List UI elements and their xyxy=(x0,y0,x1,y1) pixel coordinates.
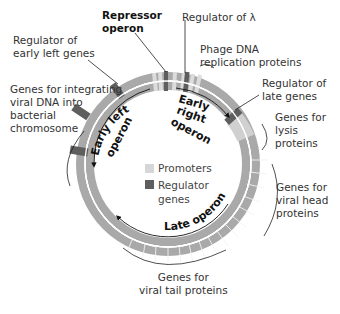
tail-genes-label: Genes for viral tail proteins xyxy=(139,271,228,297)
repressor-operon-label: Repressor operon xyxy=(102,9,162,35)
regulator-early-left-label: Regulator of early left genes xyxy=(13,34,95,60)
regulator-lambda-label: Regulator of λ xyxy=(182,11,256,24)
legend-regulators: Regulator genes xyxy=(145,178,212,206)
head-genes-label: Genes for viral head proteins xyxy=(276,181,328,220)
legend: Promoters Regulator genes xyxy=(145,162,212,206)
lysis-genes-label: Genes for lysis proteins xyxy=(275,111,326,150)
regulator-late-label: Regulator of late genes xyxy=(262,77,326,103)
regulator-swatch xyxy=(145,180,154,189)
integrating-genes-label: Genes for integrating viral DNA into bac… xyxy=(10,83,122,135)
phage-dna-replication-label: Phage DNA replication proteins xyxy=(200,43,302,69)
promoter-swatch xyxy=(145,164,154,173)
legend-promoters: Promoters xyxy=(145,162,212,178)
